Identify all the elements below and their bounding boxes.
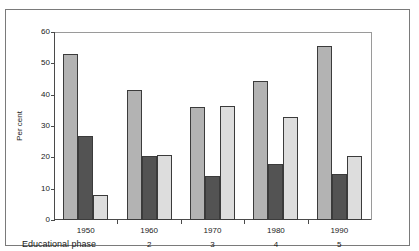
x-axis-tick-mark <box>117 220 118 224</box>
x-axis-phase-label: 5 <box>308 240 371 249</box>
y-axis-label: Per cent <box>15 111 24 141</box>
x-axis-year-labels: 19501960197019801990 <box>54 226 371 235</box>
bar-series-1-1950[interactable] <box>63 54 78 220</box>
bar-series-1-1980[interactable] <box>253 81 268 220</box>
x-axis-year-label: 1970 <box>181 226 244 235</box>
plot-right-border <box>371 32 372 220</box>
bar-series-3-1990[interactable] <box>347 156 362 220</box>
x-axis-tick-mark <box>244 220 245 224</box>
bar-series-2-1980[interactable] <box>268 164 283 220</box>
x-axis-phase-label: 4 <box>244 240 307 249</box>
y-axis-tick-label: 0 <box>46 216 50 224</box>
x-axis-year-label: 1980 <box>244 226 307 235</box>
x-axis-tick-mark <box>181 220 182 224</box>
bar-group <box>308 32 371 220</box>
bar-series-2-1960[interactable] <box>142 156 157 220</box>
bar-series-2-1970[interactable] <box>205 176 220 220</box>
x-axis-year-label: 1960 <box>117 226 180 235</box>
figure-border: Per cent 0102030405060 19501960197019801… <box>5 9 410 246</box>
y-axis-tick-label: 60 <box>41 28 50 36</box>
bar-series-1-1960[interactable] <box>127 90 142 220</box>
bar-group <box>181 32 244 220</box>
y-axis-tick-label: 20 <box>41 153 50 161</box>
y-axis-tick-label: 10 <box>41 185 50 193</box>
bar-series-3-1980[interactable] <box>283 117 298 220</box>
bar-series-3-1960[interactable] <box>157 155 172 220</box>
x-axis-phase-labels: 2345 <box>54 240 371 249</box>
y-axis-tick-label: 50 <box>41 59 50 67</box>
x-axis-title: Educational phase <box>22 239 96 249</box>
x-axis-phase-label: 2 <box>117 240 180 249</box>
bar-series-1-1990[interactable] <box>317 46 332 220</box>
bar-series-2-1990[interactable] <box>332 174 347 220</box>
bar-series-1-1970[interactable] <box>190 107 205 220</box>
bar-series-2-1950[interactable] <box>78 136 93 220</box>
x-axis-phase-label: 3 <box>181 240 244 249</box>
y-axis-tick-label: 40 <box>41 91 50 99</box>
bar-series-3-1970[interactable] <box>220 106 235 220</box>
y-axis-tick-label: 30 <box>41 122 50 130</box>
bar-group <box>117 32 180 220</box>
x-axis-year-label: 1950 <box>54 226 117 235</box>
x-axis-year-label: 1990 <box>308 226 371 235</box>
bar-groups <box>54 32 371 220</box>
bar-group <box>244 32 307 220</box>
x-axis-tick-mark <box>308 220 309 224</box>
bar-series-3-1950[interactable] <box>93 195 108 220</box>
bar-group <box>54 32 117 220</box>
y-axis-tick-mark <box>51 220 55 221</box>
